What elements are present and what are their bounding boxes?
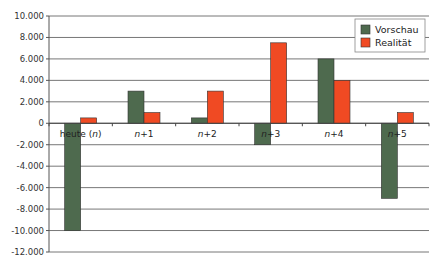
bar-chart: 10.0008.0006.0004.0002.0000-2.000-4.000-…: [0, 0, 432, 262]
y-tick-label: -2.000: [17, 140, 44, 150]
y-tick-label: 6.000: [20, 54, 44, 64]
y-tick-label: -10.000: [11, 226, 44, 236]
y-tick-label: 2.000: [20, 97, 44, 107]
x-axis: heute (n)n+1n+2n+3n+4n+5: [49, 123, 429, 139]
bar-vorschau: [65, 123, 81, 230]
x-category-label: n+1: [135, 129, 154, 139]
y-tick-label: 8.000: [20, 32, 44, 42]
y-tick-label: -6.000: [17, 183, 44, 193]
legend-swatch-vorschau: [361, 25, 370, 34]
x-category-label: n+5: [388, 129, 407, 139]
bar-vorschau: [128, 91, 144, 123]
legend-label-realitaet: Realität: [375, 37, 412, 48]
y-tick-label: -12.000: [11, 247, 44, 257]
bar-realität: [144, 113, 160, 124]
x-category-label: n+3: [261, 129, 280, 139]
bar-realität: [207, 91, 223, 123]
x-category-label: n+4: [325, 129, 344, 139]
y-axis: 10.0008.0006.0004.0002.0000-2.000-4.000-…: [11, 11, 49, 257]
bar-vorschau: [318, 59, 334, 123]
bar-vorschau: [191, 118, 207, 123]
bar-realität: [271, 43, 287, 123]
bar-realität: [334, 80, 350, 123]
bar-realität: [81, 118, 97, 123]
y-tick-label: 10.000: [14, 11, 44, 21]
bar-realität: [397, 113, 413, 124]
legend-swatch-realitaet: [361, 38, 370, 47]
y-tick-label: -8.000: [17, 204, 44, 214]
y-tick-label: 4.000: [20, 75, 44, 85]
x-category-label: n+2: [198, 129, 217, 139]
x-category-label: heute (n): [60, 129, 102, 139]
y-tick-label: 0: [39, 118, 44, 128]
legend: Vorschau Realität: [355, 19, 425, 52]
y-tick-label: -4.000: [17, 161, 44, 171]
bars: [65, 43, 414, 231]
legend-label-vorschau: Vorschau: [375, 24, 419, 35]
